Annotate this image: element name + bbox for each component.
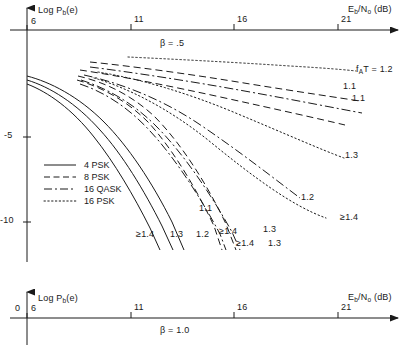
panel1-xtick-6: 6 — [31, 16, 36, 26]
curve-label-16qask-1-2: 1.2 — [301, 192, 314, 202]
panel2-y-axis-label: Log Pb(e) — [38, 293, 78, 304]
panel2-origin-tick: 0 — [15, 303, 20, 313]
panel2-xtick-21: 21 — [341, 302, 351, 312]
series-16psk — [94, 57, 356, 218]
panel2-xtick-11: 11 — [134, 302, 144, 312]
curve-label-16qask-ge1-4: ≥1.4 — [236, 238, 254, 248]
curve-label-8psk-1-1-b: 1.1 — [199, 203, 212, 213]
panel2-xtick-16: 16 — [237, 302, 247, 312]
panel1-beta-annotation: β = .5 — [160, 38, 184, 48]
legend-item-8psk: 8 PSK — [84, 172, 110, 182]
legend-samples — [44, 165, 76, 201]
legend-item-16qask: 16 QASK — [84, 184, 122, 194]
curve-label-8psk-1-3: 1.3 — [263, 224, 276, 234]
panel2-beta-annotation: β = 1.0 — [160, 325, 189, 335]
panel2-x-axis-label: Eb/No (dB) — [348, 292, 392, 303]
panel1-ytick-minus10: -10 — [0, 215, 14, 225]
series-8psk — [77, 62, 360, 250]
panel1-xtick-21: 21 — [341, 14, 351, 24]
curve-label-16qask-1-3: 1.3 — [268, 238, 281, 248]
panel-beta-0-5-axes — [10, 8, 398, 262]
curve-label-4psk-1-3: 1.3 — [170, 229, 183, 239]
curve-label-8psk-1-1: 1.1 — [343, 81, 356, 91]
panel1-x-axis-label: Eb/No (dB) — [348, 4, 392, 15]
curve-label-16psk-1-3: 1.3 — [345, 150, 358, 160]
panel1-y-axis-label: Log Pb(e) — [38, 5, 78, 16]
curve-label-8psk-ge1-4: ≥1.4 — [219, 226, 237, 236]
curve-label-16psk-ge1-4: ≥1.4 — [340, 212, 358, 222]
curve-label-4psk-1-2: 1.2 — [196, 229, 209, 239]
legend-item-4psk: 4 PSK — [84, 160, 110, 170]
legend-item-16psk: 16 PSK — [84, 196, 115, 206]
panel2-xtick-6: 6 — [31, 303, 36, 313]
panel1-xtick-16: 16 — [237, 14, 247, 24]
curve-label-fat-1-2: fAT = 1.2 — [356, 64, 393, 75]
panel1-ytick-minus5: -5 — [4, 130, 12, 140]
panel1-xtick-11: 11 — [134, 14, 144, 24]
figure-root: Log Pb(e) Eb/No (dB) 6 11 16 21 -5 -10 β… — [0, 0, 412, 345]
curve-label-4psk-ge1-4: ≥1.4 — [136, 229, 154, 239]
curve-label-16qask-1-1: 1.1 — [352, 93, 365, 103]
